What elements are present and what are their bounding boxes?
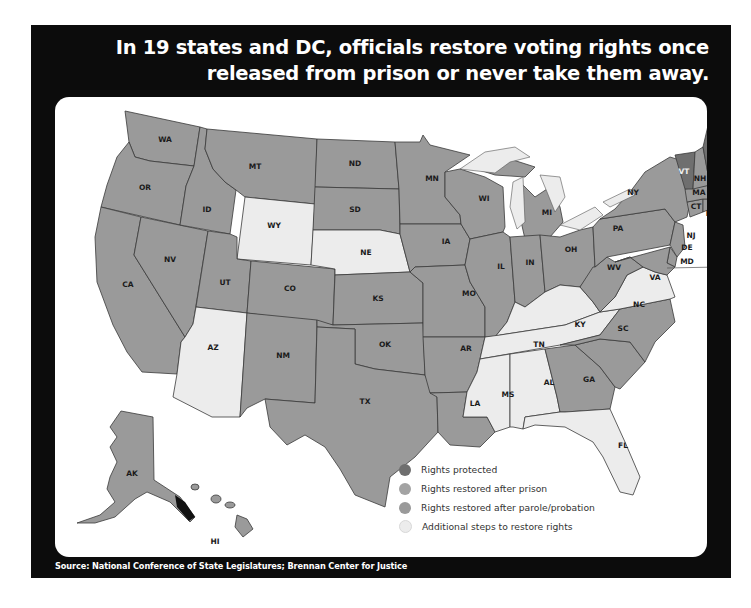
label-de: DE: [681, 243, 692, 252]
label-oh: OH: [565, 245, 578, 254]
label-ri: RI: [706, 209, 707, 218]
label-ar: AR: [460, 344, 472, 353]
label-sc: SC: [618, 324, 629, 333]
legend-label: Additional steps to restore rights: [422, 521, 573, 532]
label-wa: WA: [158, 135, 172, 144]
label-mo: MO: [462, 289, 476, 298]
label-ct: CT: [691, 202, 703, 211]
state-hi: [191, 484, 253, 537]
infographic-frame: In 19 states and DC, officials restore v…: [31, 25, 731, 578]
label-ut: UT: [219, 278, 231, 287]
source-note: Source: National Conference of State Leg…: [55, 561, 407, 571]
legend-swatch-restored-after-parole: [399, 502, 411, 514]
label-co: CO: [284, 284, 296, 293]
label-fl: FL: [618, 441, 628, 450]
headline-line-2: released from prison or never take them …: [69, 61, 709, 87]
state-ny: [600, 157, 690, 222]
label-ma: MA: [692, 188, 705, 197]
state-ia: [400, 224, 470, 272]
label-ak: AK: [126, 469, 139, 478]
label-wi: WI: [478, 194, 489, 203]
label-ky: KY: [574, 320, 586, 329]
legend-swatch-rights-protected: [399, 464, 411, 476]
legend-label: Rights restored after prison: [421, 483, 547, 494]
legend-label: Rights protected: [421, 464, 497, 475]
label-va: VA: [649, 273, 660, 282]
label-ok: OK: [379, 340, 392, 349]
label-vt: VT: [679, 167, 691, 176]
label-ms: MS: [502, 390, 515, 399]
legend-item-restored-after-prison: Rights restored after prison: [399, 479, 595, 498]
label-ca: CA: [122, 280, 134, 289]
legend-swatch-restored-after-prison: [399, 483, 411, 495]
label-ga: GA: [583, 375, 595, 384]
label-tn: TN: [533, 340, 544, 349]
label-or: OR: [139, 183, 151, 192]
label-nm: NM: [276, 351, 290, 360]
label-hi: HI: [210, 537, 219, 546]
map-card: WA OR CA NV ID MT WY UT CO AZ NM ND SD N…: [55, 97, 707, 557]
label-il: IL: [497, 262, 505, 271]
legend-label: Rights restored after parole/probation: [421, 502, 595, 513]
label-wv: WV: [607, 263, 621, 272]
label-nd: ND: [349, 159, 362, 168]
label-nc: NC: [633, 300, 645, 309]
us-map: WA OR CA NV ID MT WY UT CO AZ NM ND SD N…: [55, 97, 707, 557]
label-ia: IA: [442, 237, 451, 246]
label-mt: MT: [249, 162, 262, 171]
legend-item-additional-steps: Additional steps to restore rights: [399, 517, 595, 536]
label-ks: KS: [372, 294, 383, 303]
label-id: ID: [202, 205, 211, 214]
label-in: IN: [525, 258, 534, 267]
map-legend: Rights protected Rights restored after p…: [399, 460, 595, 536]
label-nh: NH: [694, 174, 707, 183]
states-layer: [77, 111, 707, 537]
legend-swatch-additional-steps: [399, 520, 412, 533]
headline: In 19 states and DC, officials restore v…: [69, 35, 709, 87]
legend-item-rights-protected: Rights protected: [399, 460, 595, 479]
label-pa: PA: [613, 224, 624, 233]
label-sd: SD: [349, 205, 361, 214]
headline-line-1: In 19 states and DC, officials restore v…: [69, 35, 709, 61]
label-ne: NE: [360, 248, 371, 257]
label-ny: NY: [627, 188, 639, 197]
state-wy: [237, 197, 315, 265]
legend-item-restored-after-parole: Rights restored after parole/probation: [399, 498, 595, 517]
label-nj: NJ: [686, 231, 695, 240]
label-nv: NV: [164, 255, 176, 264]
label-wy: WY: [267, 221, 281, 230]
label-mn: MN: [425, 174, 439, 183]
label-tx: TX: [360, 397, 371, 406]
label-al: AL: [544, 378, 555, 387]
label-la: LA: [470, 399, 481, 408]
label-mi: MI: [542, 208, 552, 217]
label-az: AZ: [207, 343, 219, 352]
label-md: MD: [680, 257, 694, 266]
